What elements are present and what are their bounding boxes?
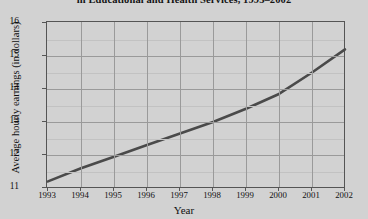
x-axis-tick-mark: [179, 188, 180, 191]
gridline-horizontal: [47, 89, 344, 90]
x-axis-tick-mark: [113, 188, 114, 191]
x-axis-tick-mark: [146, 188, 147, 191]
gridline-vertical: [180, 22, 181, 187]
gridline-vertical: [81, 22, 82, 187]
y-axis-tick-label: 13: [0, 116, 19, 125]
y-axis-tick-label: 12: [0, 149, 19, 158]
x-axis-tick-label: 2002: [324, 190, 364, 200]
gridline-horizontal-minor: [47, 40, 344, 41]
x-axis-tick-mark: [245, 188, 246, 191]
gridline-vertical: [213, 22, 214, 187]
gridline-vertical: [147, 22, 148, 187]
chart-figure: in Educational and Health Services, 1993…: [0, 0, 368, 219]
y-axis-tick-mark: [42, 55, 46, 56]
y-axis-tick-mark: [42, 22, 46, 23]
gridline-horizontal-minor: [47, 139, 344, 140]
gridline-horizontal: [47, 122, 344, 123]
gridline-vertical: [279, 22, 280, 187]
y-axis-tick-label: 11: [0, 182, 19, 191]
gridline-horizontal-minor: [47, 73, 344, 74]
gridline-horizontal-minor: [47, 172, 344, 173]
y-axis-tick-mark: [42, 88, 46, 89]
gridline-vertical: [312, 22, 313, 187]
gridline-vertical: [246, 22, 247, 187]
chart-title: in Educational and Health Services, 1993…: [0, 0, 368, 6]
x-axis-tick-mark: [80, 188, 81, 191]
y-axis-tick-label: 16: [0, 17, 19, 26]
y-axis-tick-mark: [42, 121, 46, 122]
x-axis-tick-mark: [311, 188, 312, 191]
gridline-horizontal: [47, 155, 344, 156]
plot-area: [46, 21, 345, 188]
gridline-vertical: [114, 22, 115, 187]
gridline-horizontal: [47, 56, 344, 57]
y-axis-tick-label: 14: [0, 83, 19, 92]
x-axis-tick-mark: [47, 188, 48, 191]
gridline-horizontal-minor: [47, 106, 344, 107]
y-axis-tick-label: 15: [0, 50, 19, 59]
y-axis-tick-mark: [42, 154, 46, 155]
y-axis-tick-mark: [42, 187, 46, 188]
series-polyline: [48, 49, 345, 181]
x-axis-tick-mark: [278, 188, 279, 191]
x-axis-tick-mark: [344, 188, 345, 191]
x-axis-label: Year: [0, 204, 368, 216]
x-axis-tick-mark: [212, 188, 213, 191]
